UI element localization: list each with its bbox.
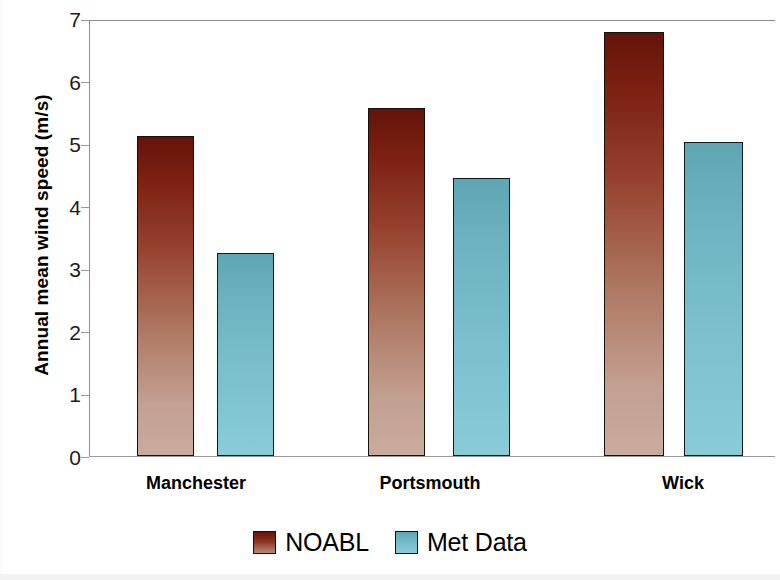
x-tick-label-wick: Wick — [623, 473, 743, 494]
x-tick-label-manchester: Manchester — [136, 473, 256, 494]
y-tick-mark-2 — [81, 332, 89, 333]
y-tick-label-6: 6 — [53, 71, 81, 95]
bar-noabl-wick — [604, 32, 664, 456]
y-tick-mark-3 — [81, 270, 89, 271]
y-tick-label-5: 5 — [53, 133, 81, 157]
y-tick-label-1: 1 — [53, 383, 81, 407]
bar-metdata-manchester — [217, 253, 274, 456]
legend-label-metdata: Met Data — [427, 528, 527, 557]
bar-noabl-portsmouth — [368, 108, 425, 456]
met-data-swatch-icon — [395, 531, 418, 554]
noabl-swatch-icon — [253, 531, 276, 554]
y-tick-mark-5 — [81, 145, 89, 146]
y-tick-mark-1 — [81, 395, 89, 396]
bar-chart-figure: Annual mean wind speed (m/s) 7 6 5 4 3 2… — [0, 0, 780, 580]
y-tick-label-2: 2 — [53, 321, 81, 345]
y-tick-mark-6 — [81, 82, 89, 83]
chart-legend: NOABL Met Data — [0, 528, 780, 557]
y-axis-title: Annual mean wind speed (m/s) — [31, 25, 53, 445]
y-tick-label-3: 3 — [53, 258, 81, 282]
plot-area — [89, 20, 775, 457]
y-tick-label-4: 4 — [53, 196, 81, 220]
page-left-edge — [0, 0, 3, 580]
legend-entry-metdata: Met Data — [395, 528, 527, 557]
y-tick-mark-7 — [81, 20, 89, 21]
legend-label-noabl: NOABL — [285, 528, 369, 557]
page-bottom-edge — [0, 574, 780, 580]
bar-metdata-portsmouth — [453, 178, 510, 456]
bar-noabl-manchester — [137, 136, 194, 456]
y-tick-label-7: 7 — [53, 8, 81, 32]
x-tick-label-portsmouth: Portsmouth — [370, 473, 490, 494]
y-tick-mark-0 — [81, 457, 89, 458]
bar-metdata-wick — [684, 142, 743, 456]
y-tick-label-0: 0 — [53, 446, 81, 470]
legend-entry-noabl: NOABL — [253, 528, 369, 557]
y-tick-mark-4 — [81, 207, 89, 208]
